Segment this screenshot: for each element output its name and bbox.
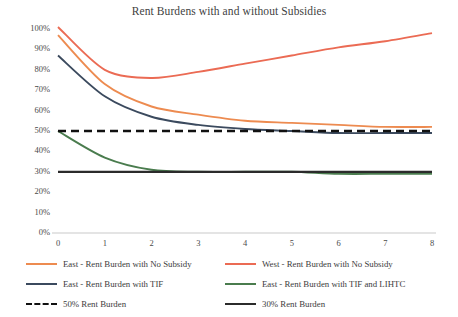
legend-color-swatch [26, 299, 57, 309]
legend-item[interactable]: 50% Rent Burden [26, 296, 126, 312]
legend-item-label: 30% Rent Burden [262, 299, 325, 309]
legend-color-swatch [225, 299, 256, 309]
legend-item-label: East - Rent Burden with No Subsidy [63, 259, 192, 269]
series-line [58, 35, 432, 127]
legend-color-swatch [26, 279, 57, 289]
legend-color-swatch [26, 259, 57, 269]
chart-legend: East - Rent Burden with No SubsidyWest -… [26, 256, 446, 314]
legend-item[interactable]: East - Rent Burden with TIF [26, 276, 163, 292]
legend-item-label: West - Rent Burden with No Subsidy [262, 259, 393, 269]
legend-item-label: East - Rent Burden with TIF [63, 279, 163, 289]
series-line [58, 131, 432, 174]
legend-item-label: East - Rent Burden with TIF and LIHTC [262, 279, 405, 289]
series-lines [58, 27, 432, 174]
legend-color-swatch [225, 259, 256, 269]
rent-burden-line-chart: Rent Burdens with and without Subsidies … [0, 0, 458, 317]
legend-item[interactable]: East - Rent Burden with TIF and LIHTC [225, 276, 405, 292]
legend-item[interactable]: 30% Rent Burden [225, 296, 325, 312]
series-line [58, 27, 432, 78]
legend-item[interactable]: East - Rent Burden with No Subsidy [26, 256, 192, 272]
legend-color-swatch [225, 279, 256, 289]
legend-item[interactable]: West - Rent Burden with No Subsidy [225, 256, 393, 272]
legend-item-label: 50% Rent Burden [63, 299, 126, 309]
